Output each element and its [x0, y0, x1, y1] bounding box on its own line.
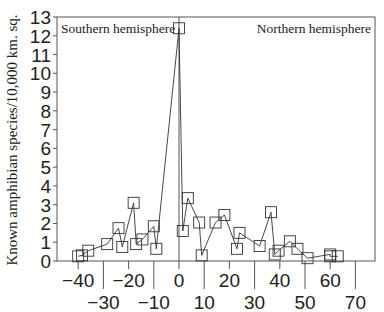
- data-point-marker: [73, 251, 84, 262]
- x-tick-label: −40: [62, 270, 94, 291]
- data-markers: [73, 23, 344, 264]
- y-tick-label: 5: [40, 157, 51, 178]
- x-tick-label: 10: [194, 292, 215, 312]
- x-tick-label: −20: [112, 270, 144, 291]
- x-tick-label: 70: [345, 292, 366, 312]
- y-tick-label: 11: [31, 45, 51, 66]
- y-tick-label: 8: [40, 101, 51, 122]
- y-tick-label: 7: [40, 120, 51, 141]
- x-tick-label: 50: [294, 292, 315, 312]
- y-tick-label: 0: [40, 251, 51, 272]
- y-axis-label: Known amphibian species/10,000 km. sq.: [4, 14, 20, 265]
- y-tick-label: 1: [40, 232, 51, 253]
- chart: Known amphibian species/10,000 km. sq. 0…: [0, 0, 384, 312]
- y-tick-label: 3: [40, 195, 51, 216]
- y-tick-label: 13: [30, 7, 51, 28]
- northern-hemisphere-label: Northern hemisphere: [257, 21, 371, 36]
- y-tick-label: 6: [40, 138, 51, 159]
- x-tick-label: 60: [320, 270, 341, 291]
- plot-frame: [57, 17, 375, 261]
- y-tick-label: 9: [40, 82, 51, 103]
- x-tick-label: 20: [219, 270, 240, 291]
- y-axis-title: Known amphibian species/10,000 km. sq.: [4, 14, 20, 265]
- x-tick-label: −10: [138, 292, 170, 312]
- y-tick-label: 4: [40, 176, 51, 197]
- x-axis: −40−30−20−10010203040506070: [62, 261, 366, 312]
- x-tick-label: 0: [174, 270, 185, 291]
- data-line: [78, 28, 338, 258]
- x-tick-label: −30: [87, 292, 119, 312]
- y-axis: 012345678910111213: [30, 7, 57, 272]
- y-tick-label: 10: [30, 63, 51, 84]
- x-tick-label: 40: [269, 270, 290, 291]
- y-tick-label: 12: [30, 26, 51, 47]
- y-tick-label: 2: [40, 213, 51, 234]
- x-tick-label: 30: [244, 292, 265, 312]
- southern-hemisphere-label: Southern hemisphere: [61, 21, 175, 36]
